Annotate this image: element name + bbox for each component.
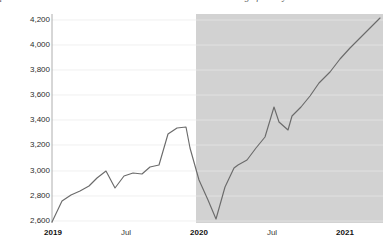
x-tick-jul-2020: Jul (267, 228, 277, 237)
x-tick-2019: 2019 (44, 228, 62, 237)
x-axis-tick-labels: 2019 Jul 2020 Jul 2021 (0, 0, 390, 251)
x-tick-jul-2019: Jul (121, 228, 131, 237)
x-tick-2021: 2021 (336, 228, 354, 237)
x-tick-2020: 2020 (190, 228, 208, 237)
line-chart: 4,200 4,000 3,800 3,600 3,400 3,200 3,00… (0, 0, 390, 251)
